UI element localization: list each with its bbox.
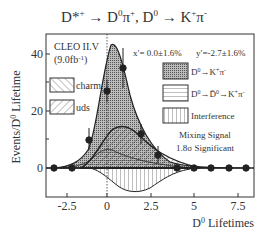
legend-mixing-swatch: [163, 85, 188, 101]
significance-label: 1.8σ Significant: [176, 143, 234, 153]
svg-text:D0→K+π-: D0→K+π-: [191, 67, 226, 77]
legend-signal-swatch: [163, 63, 188, 79]
svg-text:D0→D̄0→K+π-: D0→D̄0→K+π-: [191, 89, 244, 99]
y-prime-label: y′=-2.7±1.6%: [196, 48, 246, 58]
svg-text:2.5: 2.5: [144, 199, 159, 213]
legend-uds-swatch: [50, 100, 74, 114]
x-axis-label: D0 Lifetimes: [192, 216, 254, 230]
experiment-label: CLEO II.V: [54, 41, 100, 52]
y-axis: [46, 54, 50, 168]
luminosity-label: (9.0fb-1): [54, 54, 87, 66]
svg-text:20: 20: [31, 104, 43, 118]
chart-title: D*+ → D0π+, D0 → K+π-: [61, 8, 207, 25]
svg-text:-2.5: -2.5: [58, 199, 77, 213]
y-axis-label: Events/D0 Lifetime: [9, 71, 23, 164]
svg-text:7.5: 7.5: [231, 199, 246, 213]
svg-text:charm: charm: [76, 80, 101, 91]
x-prime-label: x′= 0.0±1.6%: [133, 48, 182, 58]
legend-charm-swatch: [50, 78, 74, 92]
svg-text:Interference: Interference: [191, 111, 234, 121]
interference-area: [90, 168, 190, 192]
svg-text:5: 5: [191, 199, 197, 213]
svg-text:40: 40: [31, 47, 43, 61]
svg-text:uds: uds: [76, 102, 90, 113]
legend-interference-swatch: [163, 108, 188, 123]
x-axis: [67, 193, 238, 197]
svg-text:0: 0: [104, 199, 110, 213]
svg-text:0: 0: [37, 161, 43, 175]
chart: D*+ → D0π+, D0 → K+π- 40 20 0 Events/D0 …: [0, 0, 268, 232]
mixing-signal-label: Mixing Signal: [179, 130, 231, 140]
